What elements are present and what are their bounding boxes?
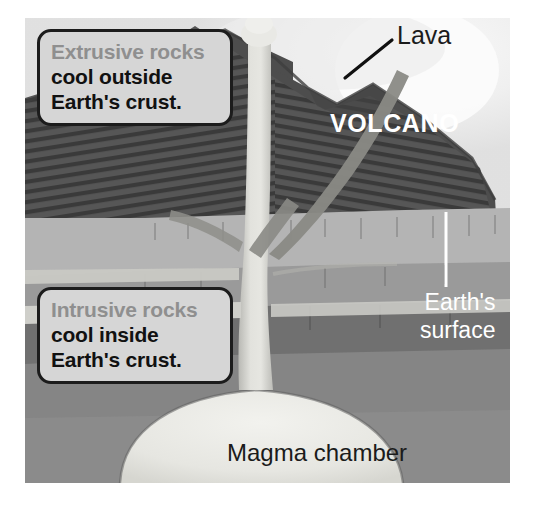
callout-extrusive-rocks: Extrusive rocks cool outside Earth's cru… <box>37 29 233 126</box>
label-earth-surface-line1: Earth's <box>420 288 495 316</box>
label-earth-surface: Earth's surface <box>420 288 495 344</box>
label-volcano: VOLCANO <box>330 110 459 137</box>
callout-extrusive-line2: cool outside <box>51 64 219 89</box>
label-lava: Lava <box>397 22 451 49</box>
callout-intrusive-heading: Intrusive rocks <box>51 297 219 322</box>
label-earth-surface-line2: surface <box>420 316 495 344</box>
callout-intrusive-line2: cool inside <box>51 322 219 347</box>
volcano-diagram-figure: Lava VOLCANO Earth's surface Magma chamb… <box>0 0 538 507</box>
callout-intrusive-line3: Earth's crust. <box>51 347 219 372</box>
label-magma-chamber: Magma chamber <box>227 440 407 466</box>
callout-extrusive-heading: Extrusive rocks <box>51 39 219 64</box>
callout-intrusive-rocks: Intrusive rocks cool inside Earth's crus… <box>37 287 233 384</box>
callout-extrusive-line3: Earth's crust. <box>51 89 219 114</box>
